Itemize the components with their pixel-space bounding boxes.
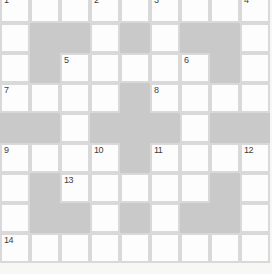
clue-number: 13 bbox=[64, 176, 73, 185]
crossword-cell[interactable] bbox=[2, 55, 28, 81]
crossword-cell[interactable] bbox=[92, 25, 118, 51]
crossword-cell[interactable] bbox=[32, 85, 58, 111]
crossword-cell[interactable]: 10 bbox=[92, 145, 118, 171]
crossword-cell[interactable] bbox=[62, 0, 88, 21]
crossword-cell[interactable] bbox=[62, 115, 88, 141]
crossword-cell[interactable] bbox=[122, 0, 148, 21]
crossword-cell[interactable] bbox=[152, 55, 178, 81]
crossword-cell[interactable] bbox=[242, 85, 268, 111]
clue-number: 8 bbox=[154, 86, 159, 95]
crossword-cell[interactable] bbox=[182, 85, 208, 111]
crossword-cell[interactable] bbox=[2, 175, 28, 201]
crossword-cell[interactable] bbox=[242, 205, 268, 231]
crossword-cell[interactable] bbox=[182, 235, 208, 261]
clue-number: 9 bbox=[4, 146, 9, 155]
clue-number: 10 bbox=[94, 146, 103, 155]
crossword-cell[interactable] bbox=[92, 205, 118, 231]
blocked-cell bbox=[150, 113, 180, 143]
blocked-cell bbox=[120, 113, 150, 143]
crossword-cell[interactable]: 1 bbox=[2, 0, 28, 21]
crossword-cell[interactable] bbox=[122, 175, 148, 201]
crossword-cell[interactable]: 9 bbox=[2, 145, 28, 171]
blocked-cell bbox=[210, 203, 240, 233]
crossword-cell[interactable] bbox=[122, 55, 148, 81]
clue-number: 7 bbox=[4, 86, 9, 95]
crossword-cell[interactable] bbox=[2, 205, 28, 231]
crossword-cell[interactable] bbox=[122, 235, 148, 261]
crossword-cell[interactable]: 3 bbox=[152, 0, 178, 21]
blocked-cell bbox=[30, 23, 60, 53]
crossword-cell[interactable] bbox=[242, 235, 268, 261]
crossword-cell[interactable]: 5 bbox=[62, 55, 88, 81]
clue-number: 2 bbox=[94, 0, 99, 5]
crossword-grid: 1234567891011121314 bbox=[0, 0, 270, 263]
clue-number: 6 bbox=[184, 56, 189, 65]
crossword-cell[interactable] bbox=[212, 85, 238, 111]
crossword-cell[interactable] bbox=[212, 0, 238, 21]
blocked-cell bbox=[0, 113, 30, 143]
crossword-cell[interactable] bbox=[152, 205, 178, 231]
clue-number: 5 bbox=[64, 56, 69, 65]
crossword-cell[interactable] bbox=[152, 235, 178, 261]
crossword-cell[interactable]: 4 bbox=[242, 0, 268, 21]
crossword-cell[interactable] bbox=[182, 115, 208, 141]
crossword-cell[interactable] bbox=[92, 85, 118, 111]
blocked-cell bbox=[210, 173, 240, 203]
clue-number: 11 bbox=[154, 146, 162, 155]
crossword-cell[interactable] bbox=[92, 55, 118, 81]
crossword-cell[interactable] bbox=[2, 25, 28, 51]
crossword-cell[interactable] bbox=[62, 235, 88, 261]
crossword-cell[interactable] bbox=[182, 0, 208, 21]
crossword-cell[interactable] bbox=[152, 175, 178, 201]
blocked-cell bbox=[210, 53, 240, 83]
crossword-cell[interactable] bbox=[242, 55, 268, 81]
clue-number: 12 bbox=[244, 146, 253, 155]
crossword-cell[interactable] bbox=[92, 235, 118, 261]
blocked-cell bbox=[210, 23, 240, 53]
crossword-cell[interactable] bbox=[62, 145, 88, 171]
crossword-cell[interactable] bbox=[182, 175, 208, 201]
clue-number: 14 bbox=[4, 236, 13, 245]
clue-number: 3 bbox=[154, 0, 159, 5]
blocked-cell bbox=[120, 83, 150, 113]
crossword-cell[interactable] bbox=[212, 235, 238, 261]
blocked-cell bbox=[240, 113, 270, 143]
crossword-cell[interactable] bbox=[242, 175, 268, 201]
blocked-cell bbox=[90, 113, 120, 143]
crossword-cell[interactable]: 14 bbox=[2, 235, 28, 261]
crossword-cell[interactable]: 6 bbox=[182, 55, 208, 81]
crossword-cell[interactable] bbox=[212, 145, 238, 171]
crossword-cell[interactable] bbox=[182, 145, 208, 171]
crossword-cell[interactable] bbox=[32, 0, 58, 21]
blocked-cell bbox=[30, 173, 60, 203]
crossword-cell[interactable]: 11 bbox=[152, 145, 178, 171]
crossword-cell[interactable] bbox=[32, 145, 58, 171]
crossword-cell[interactable]: 12 bbox=[242, 145, 268, 171]
crossword-app: 1234567891011121314 bbox=[0, 0, 272, 274]
clue-number: 4 bbox=[244, 0, 249, 5]
crossword-cell[interactable] bbox=[32, 235, 58, 261]
crossword-cell[interactable]: 7 bbox=[2, 85, 28, 111]
blocked-cell bbox=[180, 23, 210, 53]
blocked-cell bbox=[210, 113, 240, 143]
blocked-cell bbox=[120, 203, 150, 233]
crossword-cell[interactable] bbox=[92, 175, 118, 201]
clue-number: 1 bbox=[4, 0, 9, 5]
crossword-cell[interactable] bbox=[242, 25, 268, 51]
blocked-cell bbox=[60, 23, 90, 53]
blocked-cell bbox=[30, 113, 60, 143]
blocked-cell bbox=[30, 203, 60, 233]
crossword-cell[interactable] bbox=[62, 85, 88, 111]
blocked-cell bbox=[120, 143, 150, 173]
blocked-cell bbox=[120, 23, 150, 53]
blocked-cell bbox=[60, 203, 90, 233]
blocked-cell bbox=[180, 203, 210, 233]
crossword-cell[interactable] bbox=[152, 25, 178, 51]
crossword-cell[interactable]: 13 bbox=[62, 175, 88, 201]
crossword-cell[interactable]: 8 bbox=[152, 85, 178, 111]
blocked-cell bbox=[30, 53, 60, 83]
crossword-cell[interactable]: 2 bbox=[92, 0, 118, 21]
